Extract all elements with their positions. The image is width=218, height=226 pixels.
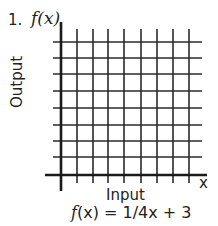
horizontal-grid-lines xyxy=(53,42,202,157)
vertical-grid-lines xyxy=(77,29,189,183)
x-axis-variable: x xyxy=(199,174,208,192)
function-equation: f(x) = 1/4x + 3 xyxy=(71,203,191,222)
y-axis-title: Output xyxy=(8,56,26,108)
function-expression: (x) = 1/4x + 3 xyxy=(77,203,192,222)
x-axis-title: Input xyxy=(106,186,145,204)
